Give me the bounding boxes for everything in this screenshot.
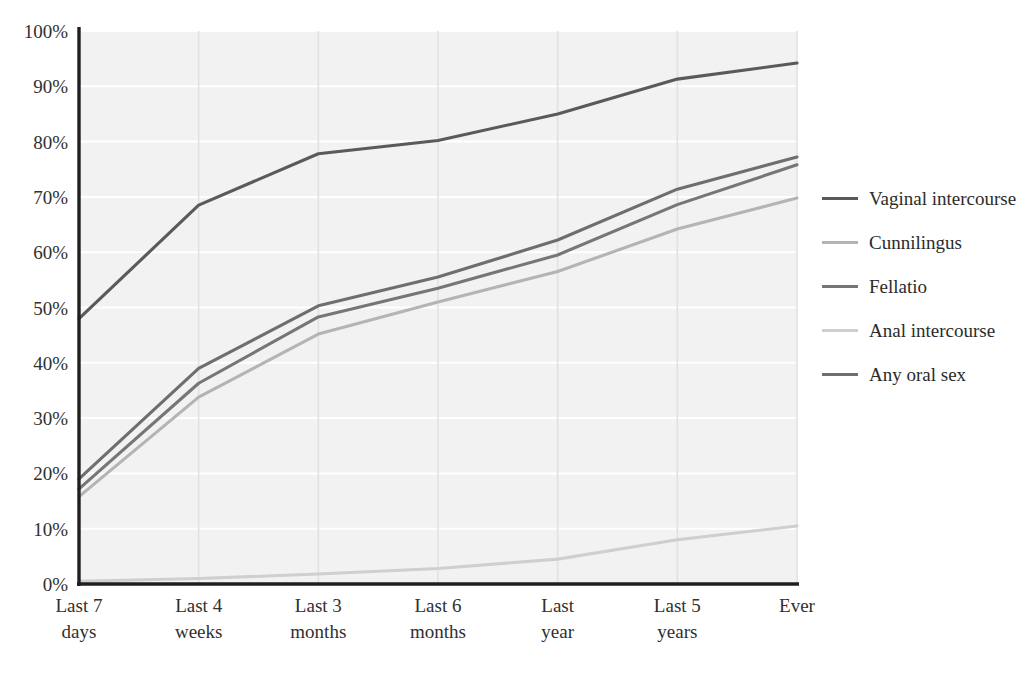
- legend-item-label: Vaginal intercourse: [869, 189, 1016, 208]
- x-tick-label: Ever: [779, 595, 815, 616]
- legend-item[interactable]: Fellatio: [822, 264, 1022, 308]
- legend-item[interactable]: Cunnilingus: [822, 220, 1022, 264]
- x-tick-label: months: [410, 621, 466, 642]
- plot-area-wrapper: 0%10%20%30%40%50%60%70%80%90%100% Last 7…: [0, 0, 815, 678]
- x-tick-label: Last 4: [175, 595, 222, 616]
- legend-item-label: Anal intercourse: [869, 321, 995, 340]
- x-tick-label: Last 7: [56, 595, 103, 616]
- legend-item[interactable]: Anal intercourse: [822, 308, 1022, 352]
- legend-line-swatch-icon: [822, 241, 858, 244]
- chart-legend: Vaginal intercourseCunnilingusFellatioAn…: [822, 176, 1022, 396]
- y-tick-label: 0%: [43, 574, 69, 595]
- x-tick-label: Last 6: [415, 595, 462, 616]
- x-tick-label: months: [290, 621, 346, 642]
- legend-line-swatch-icon: [822, 373, 858, 376]
- x-tick-label: days: [62, 621, 97, 642]
- chart-canvas: 0%10%20%30%40%50%60%70%80%90%100% Last 7…: [0, 0, 815, 678]
- legend-item-label: Fellatio: [869, 277, 927, 296]
- y-tick-label: 60%: [33, 242, 68, 263]
- y-tick-label: 20%: [33, 463, 68, 484]
- legend-item-label: Any oral sex: [869, 365, 966, 384]
- y-tick-label: 90%: [33, 76, 68, 97]
- x-tick-label: weeks: [175, 621, 222, 642]
- x-tick-label: Last 3: [295, 595, 342, 616]
- x-tick-label: year: [541, 621, 574, 642]
- y-axis-tick-labels: 0%10%20%30%40%50%60%70%80%90%100%: [24, 21, 69, 595]
- legend-item-label: Cunnilingus: [869, 233, 962, 252]
- y-tick-label: 30%: [33, 408, 68, 429]
- x-axis-tick-labels: Last 7daysLast 4weeksLast 3monthsLast 6m…: [56, 595, 815, 642]
- y-tick-label: 100%: [24, 21, 69, 42]
- x-tick-label: Last: [541, 595, 574, 616]
- legend-line-swatch-icon: [822, 329, 858, 332]
- legend-item[interactable]: Any oral sex: [822, 352, 1022, 396]
- y-tick-label: 80%: [33, 132, 68, 153]
- legend-item[interactable]: Vaginal intercourse: [822, 176, 1022, 220]
- legend-line-swatch-icon: [822, 285, 858, 288]
- chart-title: [0, 0, 815, 4]
- x-tick-label: Last 5: [654, 595, 701, 616]
- line-chart: 0%10%20%30%40%50%60%70%80%90%100% Last 7…: [0, 0, 1025, 678]
- y-tick-label: 10%: [33, 519, 68, 540]
- y-tick-label: 70%: [33, 187, 68, 208]
- y-tick-label: 50%: [33, 298, 68, 319]
- x-tick-label: years: [657, 621, 697, 642]
- y-tick-label: 40%: [33, 353, 68, 374]
- legend-line-swatch-icon: [822, 197, 858, 200]
